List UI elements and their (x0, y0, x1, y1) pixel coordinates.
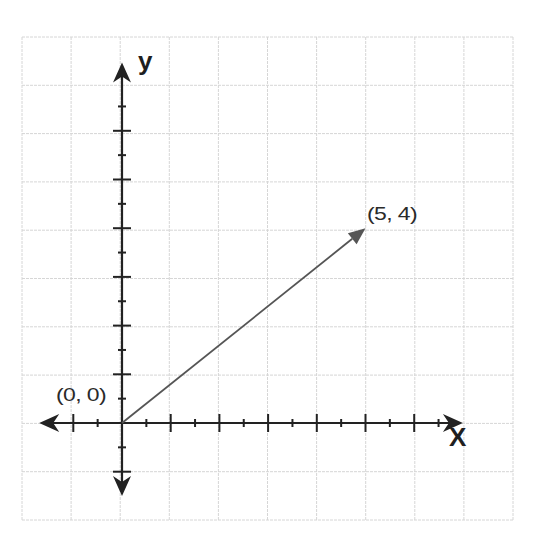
axes (39, 63, 463, 496)
coordinate-plane-diagram: y X (0, 0) (5, 4) (0, 0, 533, 545)
vector-line (122, 239, 352, 423)
endpoint-label: (5, 4) (367, 203, 417, 224)
labels: y X (0, 0) (5, 4) (56, 46, 467, 452)
grid (22, 37, 513, 520)
x-axis-label: X (449, 422, 467, 452)
origin-label: (0, 0) (56, 384, 106, 405)
y-axis-label: y (138, 46, 153, 76)
vector-arrow (122, 228, 366, 423)
